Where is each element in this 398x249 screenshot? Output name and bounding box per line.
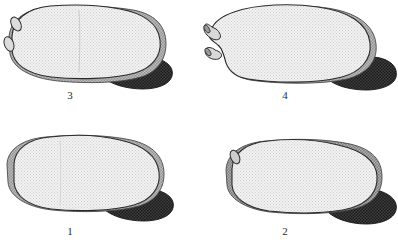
figure-1-body bbox=[14, 135, 159, 210]
figure-1-label: 1 bbox=[52, 226, 88, 237]
figure-3-label: 3 bbox=[52, 90, 88, 101]
figure-2-label: 2 bbox=[267, 226, 303, 237]
figure-2-body bbox=[232, 140, 377, 213]
figure-4-body bbox=[209, 5, 370, 82]
figure-4-label: 4 bbox=[267, 90, 303, 101]
specimen-plate bbox=[0, 0, 398, 249]
figure-3-body bbox=[12, 5, 160, 79]
